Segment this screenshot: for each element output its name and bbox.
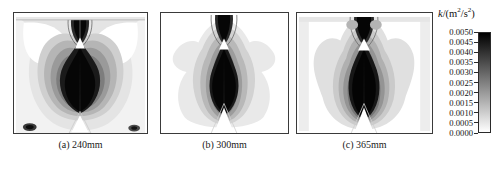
colorbar-tick-label: 0.0030 [449, 67, 473, 77]
colorbar-tick-mark [474, 133, 478, 134]
colorbar-tick: 0.0010 [436, 108, 478, 118]
colorbar-title-slash: /(m [443, 8, 458, 19]
colorbar-tick-label: 0.0005 [449, 118, 473, 128]
colorbar-tick-label: 0.0050 [449, 27, 473, 37]
colorbar-tick-label: 0.0015 [449, 98, 473, 108]
colorbar-tick: 0.0030 [436, 67, 478, 77]
panel-caption-c: (c) 365mm [296, 139, 433, 150]
colorbar-tick-label: 0.0025 [449, 78, 473, 88]
colorbar-tick-label: 0.0020 [449, 88, 473, 98]
colorbar-tick: 0.0035 [436, 57, 478, 67]
contour-panel-a [13, 12, 148, 134]
colorbar-tick-label: 0.0000 [449, 128, 473, 138]
colorbar-tick: 0.0025 [436, 78, 478, 88]
colorbar-title-close: ) [471, 8, 475, 19]
colorbar-tick-mark [474, 52, 478, 53]
colorbar-title-mid: /s [461, 8, 468, 19]
colorbar-tick-mark [474, 62, 478, 63]
colorbar-tick: 0.0050 [436, 27, 478, 37]
contour-plot-b [161, 13, 288, 133]
colorbar-title: k/(m2/s2) [438, 6, 475, 19]
colorbar-tick-mark [474, 112, 478, 113]
colorbar-tick-list: 0.00500.00450.00400.00350.00300.00250.00… [436, 26, 478, 139]
colorbar-tick-mark [474, 32, 478, 33]
colorbar-tick: 0.0020 [436, 88, 478, 98]
colorbar-tick-label: 0.0045 [449, 37, 473, 47]
colorbar-tick-mark [474, 82, 478, 83]
contour-panel-c [296, 12, 433, 134]
colorbar-tick-label: 0.0040 [449, 47, 473, 57]
colorbar-tick-label: 0.0010 [449, 108, 473, 118]
colorbar-tick-mark [474, 42, 478, 43]
colorbar-tick-mark [474, 72, 478, 73]
colorbar-tick: 0.0000 [436, 128, 478, 138]
figure-root: (a) 240mm (b) 300mm (c) 365mm k/(m2/s2) … [0, 0, 498, 174]
panel-caption-a: (a) 240mm [13, 139, 148, 150]
colorbar-tick-mark [474, 102, 478, 103]
colorbar-tick: 0.0015 [436, 98, 478, 108]
colorbar-tick: 0.0040 [436, 47, 478, 57]
colorbar-gradient [478, 32, 491, 133]
colorbar-tick-mark [474, 92, 478, 93]
contour-plot-c [297, 13, 432, 133]
colorbar-tick: 0.0045 [436, 37, 478, 47]
panel-caption-b: (b) 300mm [160, 139, 289, 150]
colorbar-tick-label: 0.0035 [449, 57, 473, 67]
contour-panel-b [160, 12, 289, 134]
colorbar-tick: 0.0005 [436, 118, 478, 128]
colorbar-group: k/(m2/s2) 0.00500.00450.00400.00350.0030… [436, 6, 496, 138]
contour-plot-a [14, 13, 147, 133]
colorbar-tick-mark [474, 122, 478, 123]
